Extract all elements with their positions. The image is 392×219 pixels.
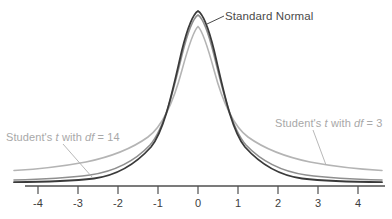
leader-line-t-df14 (63, 144, 92, 177)
label-t-df14: Student's t with df = 14 (6, 131, 120, 143)
curve-t-df3 (14, 27, 382, 171)
curve-standard-normal (14, 11, 382, 182)
label-standard-normal-text: Standard Normal (225, 10, 313, 22)
axis-tick-label: -4 (33, 197, 43, 209)
axis-tick-label: 4 (355, 197, 361, 209)
axis-tick-label: 1 (235, 197, 241, 209)
label-t-df3: Student's t with df = 3 (275, 117, 382, 129)
axis-tick-label: -2 (113, 197, 123, 209)
distribution-figure: Standard Normal Student's t with df = 14… (0, 0, 392, 219)
label-t-df3-variable-df: df (354, 117, 363, 129)
axis-ticks (38, 186, 358, 194)
label-t-df14-suffix: = 14 (94, 131, 119, 143)
axis-tick-label: 0 (195, 197, 201, 209)
label-t-df3-middle: with (328, 117, 354, 129)
label-t-df14-middle: with (59, 131, 85, 143)
axis-tick-label: -1 (153, 197, 163, 209)
axis-tick-label: 2 (275, 197, 281, 209)
label-t-df14-variable-df: df (85, 131, 94, 143)
curve-t-df14 (14, 15, 382, 180)
distribution-plot (0, 0, 392, 219)
label-t-df3-suffix: = 3 (363, 117, 382, 129)
label-standard-normal: Standard Normal (225, 10, 313, 22)
axis-tick-label: 3 (315, 197, 321, 209)
label-t-df3-prefix: Student's (275, 117, 325, 129)
axis-tick-label: -3 (73, 197, 83, 209)
leader-line-t-df3 (313, 130, 326, 165)
label-t-df14-prefix: Student's (6, 131, 56, 143)
leader-line-standard-normal (207, 16, 224, 24)
